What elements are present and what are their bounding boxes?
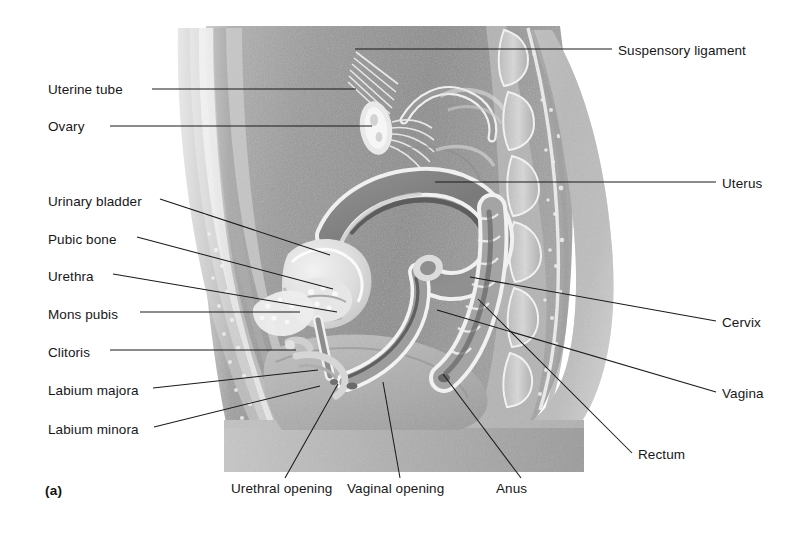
- label-anus: Anus: [496, 482, 527, 496]
- ovary: [356, 99, 395, 157]
- perineum: [264, 334, 488, 430]
- sacrum-vertebrae: [470, 26, 566, 448]
- urinary-bladder: [282, 239, 371, 329]
- anus: [438, 374, 450, 382]
- label-cervix: Cervix: [722, 316, 761, 330]
- urethral-opening: [330, 379, 338, 385]
- label-urinary-bladder: Urinary bladder: [48, 195, 142, 209]
- thigh-cross-section: [224, 420, 584, 472]
- label-labium-majora: Labium majora: [48, 384, 139, 398]
- label-vagina: Vagina: [722, 387, 764, 401]
- rectum: [444, 208, 500, 378]
- anatomical-figure: Uterine tube Ovary Urinary bladder Pubic…: [0, 0, 804, 534]
- label-uterus: Uterus: [722, 177, 762, 191]
- uterus: [330, 182, 499, 286]
- label-pubic-bone: Pubic bone: [48, 233, 117, 247]
- label-vaginal-opening: Vaginal opening: [347, 482, 444, 496]
- urethra: [318, 320, 330, 376]
- torso-section: [200, 26, 573, 448]
- label-urethra: Urethra: [48, 270, 94, 284]
- uterine-tube-and-ovary: [348, 52, 493, 210]
- leader-lines: [110, 49, 716, 478]
- label-rectum: Rectum: [638, 448, 685, 462]
- pubic-bone: [294, 277, 352, 322]
- label-labium-minora: Labium minora: [48, 423, 139, 437]
- label-urethral-opening: Urethral opening: [231, 482, 332, 496]
- cervix-and-vagina: [346, 251, 446, 382]
- peritoneal-contents: [436, 90, 504, 166]
- vaginal-opening: [347, 382, 358, 389]
- external-genitalia: [253, 290, 450, 396]
- gluteal-contour: [500, 30, 614, 463]
- figure-caption: (a): [45, 483, 62, 498]
- label-uterine-tube: Uterine tube: [48, 83, 123, 97]
- label-mons-pubis: Mons pubis: [48, 308, 118, 322]
- label-clitoris: Clitoris: [48, 346, 90, 360]
- abdominal-wall-layers: [178, 28, 312, 448]
- label-suspensory-ligament: Suspensory ligament: [618, 44, 746, 58]
- label-ovary: Ovary: [48, 120, 85, 134]
